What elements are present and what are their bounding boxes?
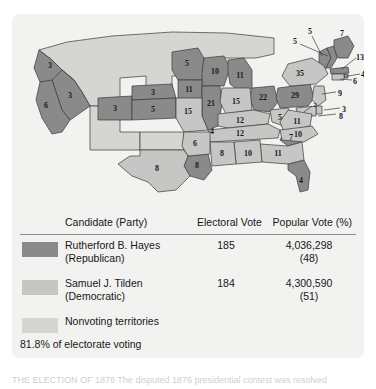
state-label-MO: 15 <box>184 107 192 116</box>
electoral-vote-cell: 185 <box>197 239 255 251</box>
state-label-NC: 10 <box>294 130 302 139</box>
popular-vote-cell: 4,300,590 (51) <box>266 277 352 302</box>
column-header-popular-vote: Popular Vote (%) <box>273 216 352 228</box>
state-label-MA: 13 <box>356 53 364 62</box>
state-label-AR: 6 <box>193 139 197 148</box>
state-label-IA: 11 <box>185 85 193 94</box>
candidate-party: (Republican) <box>65 252 160 265</box>
state-label-TX: 8 <box>155 164 159 173</box>
state-label-SC: 7 <box>289 133 293 142</box>
state-label-AL: 10 <box>244 149 252 158</box>
state-label-CT: 6 <box>353 77 357 86</box>
state-label-KS: 5 <box>151 105 155 114</box>
state-label-AR-corner: 4 <box>210 127 214 136</box>
state-DE <box>316 106 322 114</box>
state-label-ME: 7 <box>340 29 344 38</box>
table-header-row: Candidate (Party) Electoral Vote Popular… <box>12 212 364 234</box>
state-MA <box>330 67 349 74</box>
state-label-RI: 4 <box>361 70 364 79</box>
nonvoting-swatch <box>22 318 58 333</box>
leader-line-ri <box>348 74 360 76</box>
state-RI <box>344 74 348 78</box>
state-label-DC: 2 <box>313 101 317 109</box>
state-label-VA: 11 <box>293 117 301 126</box>
democratic-swatch <box>22 280 58 295</box>
turnout-footnote: 81.8% of electorate voting <box>20 338 141 350</box>
state-label-LA: 8 <box>195 161 199 170</box>
popular-vote-count: 4,300,590 <box>266 277 352 290</box>
state-label-MN: 5 <box>185 59 189 68</box>
leader-line-ma <box>342 58 356 69</box>
candidate-name: Rutherford B. Hayes <box>65 239 160 252</box>
state-label-MS: 8 <box>220 149 224 158</box>
header-divider <box>20 234 356 235</box>
state-label-CA: 6 <box>44 101 48 110</box>
state-label-MD: 8 <box>339 112 343 121</box>
popular-vote-percent: (48) <box>266 252 352 265</box>
leader-line-de <box>324 108 340 110</box>
territory-indian <box>140 132 184 150</box>
state-label-FL: 4 <box>299 176 303 185</box>
state-label-OR: 3 <box>48 61 52 70</box>
state-label-NE: 3 <box>151 88 155 97</box>
popular-vote-count: 4,036,298 <box>266 239 352 252</box>
state-TX <box>118 150 190 192</box>
state-TN <box>208 124 280 142</box>
state-label-WV: 5 <box>278 113 282 122</box>
state-label-GA: 11 <box>274 149 282 158</box>
column-header-electoral-vote: Electoral Vote <box>197 216 262 228</box>
state-label-PA: 29 <box>291 91 299 100</box>
state-label-NH: 5 <box>293 37 297 46</box>
candidate-party: (Democratic) <box>65 290 143 303</box>
electoral-vote-cell: 184 <box>197 277 255 289</box>
state-label-TN: 12 <box>236 129 244 138</box>
state-label-NJ: 9 <box>338 89 342 98</box>
candidate-cell: Samuel J. Tilden (Democratic) <box>65 277 143 302</box>
state-GA <box>260 142 304 164</box>
table-row: Samuel J. Tilden (Democratic) 184 4,300,… <box>12 278 364 314</box>
state-label-CO: 3 <box>113 104 117 113</box>
candidate-cell: Nonvoting territories <box>65 315 159 328</box>
state-label-IN: 15 <box>232 97 240 106</box>
state-label-NY: 35 <box>296 69 304 78</box>
candidate-name: Samuel J. Tilden <box>65 277 143 290</box>
state-label-MI: 11 <box>236 71 244 80</box>
popular-vote-percent: (51) <box>266 290 352 303</box>
republican-swatch <box>22 242 58 257</box>
column-header-candidate: Candidate (Party) <box>65 216 147 228</box>
state-label-VT: 5 <box>308 27 312 36</box>
candidate-cell: Rutherford B. Hayes (Republican) <box>65 239 160 264</box>
state-label-KY: 12 <box>236 116 244 125</box>
state-label-WI: 10 <box>211 67 219 76</box>
electoral-map: 3 3 6 3 3 5 5 10 11 15 21 11 15 22 29 35… <box>12 14 364 212</box>
figure-caption: THE ELECTION OF 1876 The disputed 1876 p… <box>12 375 376 385</box>
state-label-OH: 22 <box>259 93 267 102</box>
state-ME <box>334 36 354 58</box>
nonvoting-label: Nonvoting territories <box>65 315 159 328</box>
state-label-NV: 3 <box>68 91 72 100</box>
table-row: Rutherford B. Hayes (Republican) 185 4,0… <box>12 240 364 276</box>
results-table: Candidate (Party) Electoral Vote Popular… <box>12 212 364 358</box>
state-label-IL: 21 <box>207 99 215 108</box>
election-map-figure: 3 3 6 3 3 5 5 10 11 15 21 11 15 22 29 35… <box>0 0 376 389</box>
popular-vote-cell: 4,036,298 (48) <box>266 239 352 264</box>
